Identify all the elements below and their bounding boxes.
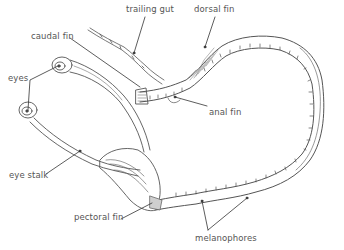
trailing-gut-leader <box>134 17 145 53</box>
label-dorsal-fin: dorsal fin <box>194 4 235 14</box>
trailing-gut-drawing <box>88 28 164 84</box>
anal-fin-leader <box>175 97 207 106</box>
label-eye-stalk: eye stalk <box>9 170 48 180</box>
label-pectoral-fin: pectoral fin <box>74 212 124 222</box>
label-caudal-fin: caudal fin <box>31 31 74 41</box>
dorsal-fin-leader <box>205 17 215 47</box>
head-drawing <box>19 57 162 211</box>
label-anal-fin: anal fin <box>209 107 241 117</box>
label-trailing-gut: trailing gut <box>126 4 174 14</box>
caudal-fin-leader <box>70 38 140 87</box>
body-drawing <box>136 36 324 210</box>
eye-stalk-leader <box>46 151 80 174</box>
melanophores-leader <box>202 198 247 230</box>
label-eyes: eyes <box>8 73 28 83</box>
label-melanophores: melanophores <box>195 233 257 243</box>
leader-lines <box>28 17 248 230</box>
fish-larva-diagram: trailing gut dorsal fin caudal fin eyes … <box>0 0 344 250</box>
